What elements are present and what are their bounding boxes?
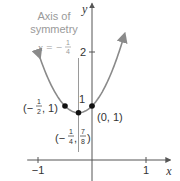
x-axis-title: x [165, 164, 172, 178]
label-prefix: (− [23, 102, 33, 114]
label-separator: , [74, 132, 77, 144]
chart: −11 12 x y Axis of symmetry x = − 1 4 (−… [0, 0, 180, 181]
point-label-y-intercept: (0, 1) [97, 111, 123, 123]
point-y-intercept [89, 103, 95, 109]
equation-denominator: 4 [66, 48, 70, 55]
point-left [62, 103, 68, 109]
equation-prefix: x = − [37, 41, 63, 53]
label-denominator-2: 8 [81, 138, 85, 145]
label-numerator-2: 7 [81, 128, 85, 135]
equation-numerator: 1 [66, 39, 70, 46]
label-denominator: 2 [37, 108, 41, 115]
y-axis-title: y [81, 2, 88, 16]
label-numerator: 1 [37, 98, 41, 105]
point-vertex [76, 110, 82, 116]
axis-of-symmetry-equation: x = − 1 4 [37, 39, 71, 55]
axis-of-symmetry-title-line2: symmetry [30, 23, 78, 35]
label-numerator: 1 [69, 128, 73, 135]
label-denominator: 4 [69, 138, 73, 145]
point-label-left: (− 1 2 , 1) [23, 98, 58, 115]
axis-of-symmetry-title: Axis of [37, 10, 71, 22]
label-prefix: (− [55, 132, 65, 144]
point-label-vertex: (− 1 4 , 7 8 ) [55, 128, 91, 145]
y-tick-label: 1 [79, 93, 85, 105]
x-tick-label: 1 [143, 164, 149, 176]
label-suffix: ) [87, 132, 91, 144]
y-tick-label: 2 [80, 46, 86, 58]
label-suffix: , 1) [42, 102, 58, 114]
x-tick-label: −1 [32, 164, 45, 176]
